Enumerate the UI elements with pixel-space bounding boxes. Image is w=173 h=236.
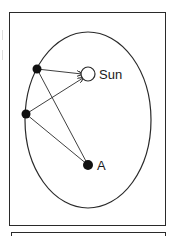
line-planet1-to-sun bbox=[37, 69, 82, 74]
sun-circle-icon bbox=[81, 67, 95, 81]
orbit-diagram: Sun A bbox=[0, 0, 173, 236]
line-planet2-to-a bbox=[26, 114, 88, 165]
line-planet1-to-a bbox=[37, 69, 88, 165]
line-planet2-to-sun bbox=[26, 78, 83, 114]
planet-position-2-icon bbox=[22, 110, 31, 119]
sun-label: Sun bbox=[99, 67, 122, 82]
orbit-ellipse bbox=[25, 32, 151, 208]
planet-position-1-icon bbox=[33, 65, 42, 74]
point-a-icon bbox=[83, 160, 93, 170]
point-a-label: A bbox=[97, 158, 106, 173]
